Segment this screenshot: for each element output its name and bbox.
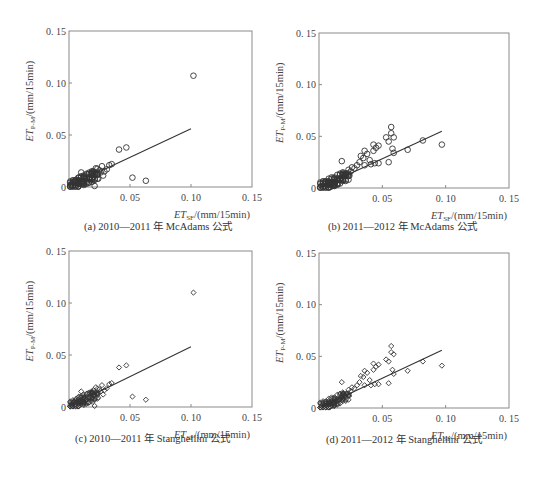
y-tick-label: 0. 10	[46, 78, 66, 89]
data-point-circle	[388, 124, 394, 130]
y-tick-label: 0. 15	[46, 26, 66, 37]
data-point-circle	[191, 73, 197, 79]
y-tick-label: 0. 10	[46, 298, 66, 309]
data-point-diamond	[124, 363, 129, 368]
y-tick-label: 0. 05	[296, 131, 316, 142]
data-point-diamond	[358, 373, 363, 378]
data-point-diamond	[439, 363, 444, 368]
data-point-circle	[143, 178, 149, 184]
y-tick-label: 0	[61, 182, 66, 193]
y-tick-label: 0. 05	[46, 130, 66, 141]
data-point-circle	[130, 175, 136, 181]
x-tick-label: 0. 05	[372, 413, 392, 424]
y-tick-label: 0. 15	[296, 28, 316, 39]
plot-frame	[69, 251, 252, 407]
panel-caption-a: (a) 2010—2011 年 McAdams 公式	[84, 218, 232, 233]
panel-caption-b: (b) 2011—2012 年 McAdams 公式	[328, 218, 477, 233]
data-point-circle	[124, 145, 130, 151]
y-axis-label: ETP-M/(mm/15min)	[274, 62, 287, 144]
y-tick-label: 0. 05	[296, 351, 316, 362]
y-tick-label: 0	[311, 403, 316, 414]
data-point-diamond	[405, 368, 410, 373]
x-tick-label: 0. 15	[242, 412, 262, 423]
y-tick-label: 0	[61, 402, 66, 413]
x-tick-label: 0. 10	[436, 193, 456, 204]
y-axis-label: ETP-M/(mm/15min)	[24, 60, 37, 142]
chart-panel-a: 00. 050. 100. 150. 050. 100. 15ETSF/(mm/…	[24, 26, 262, 223]
y-axis-label: ETP-M/(mm/15min)	[274, 282, 287, 364]
plot-frame	[319, 253, 509, 408]
x-tick-label: 0. 05	[372, 193, 392, 204]
chart-panel-b: 00. 050. 100. 150. 050. 100. 15ETSF/(mm/…	[274, 28, 519, 224]
y-tick-label: 0. 10	[296, 299, 316, 310]
data-point-diamond	[389, 343, 394, 348]
y-tick-label: 0. 10	[296, 79, 316, 90]
x-tick-label: 0. 15	[499, 413, 519, 424]
regression-line	[93, 129, 191, 175]
x-tick-label: 0. 05	[120, 192, 140, 203]
data-point-diamond	[339, 380, 344, 385]
data-point-diamond	[191, 290, 196, 295]
data-point-circle	[92, 183, 98, 189]
y-tick-label: 0. 15	[46, 246, 66, 257]
panel-caption-c: (c) 2010—2011 年 Stanghellini 公式	[75, 430, 230, 445]
x-tick-label: 0. 10	[181, 412, 201, 423]
scatter-points	[67, 73, 196, 189]
data-point-diamond	[79, 389, 84, 394]
x-tick-label: 0. 05	[120, 412, 140, 423]
data-point-circle	[383, 135, 389, 141]
data-point-diamond	[386, 381, 391, 386]
panel-caption-d: (d) 2011—2012 年 Stanghellini 公式	[326, 431, 482, 446]
data-point-circle	[391, 135, 397, 141]
data-point-circle	[386, 159, 392, 165]
data-point-circle	[439, 142, 445, 148]
regression-line	[319, 350, 442, 408]
plot-frame	[69, 31, 252, 187]
regression-line	[93, 347, 191, 395]
y-axis-label: ETP-M/(mm/15min)	[24, 280, 37, 362]
data-point-circle	[386, 139, 392, 145]
chart-panel-d: 00. 050. 100. 150. 050. 100. 15ETSF/(mm/…	[274, 248, 519, 444]
data-point-diamond	[116, 365, 121, 370]
data-point-diamond	[361, 374, 366, 379]
y-tick-label: 0. 05	[46, 350, 66, 361]
chart-panel-c: 00. 050. 100. 150. 050. 100. 15ETSF/(mm/…	[24, 246, 262, 443]
x-tick-label: 0. 10	[181, 192, 201, 203]
data-point-circle	[116, 147, 122, 153]
x-tick-label: 0. 15	[499, 193, 519, 204]
data-point-circle	[388, 130, 394, 136]
data-point-diamond	[367, 378, 372, 383]
x-tick-label: 0. 10	[436, 413, 456, 424]
plot-frame	[319, 33, 509, 188]
y-tick-label: 0	[311, 183, 316, 194]
data-point-circle	[339, 158, 345, 164]
data-point-diamond	[143, 397, 148, 402]
data-point-diamond	[130, 394, 135, 399]
regression-line	[319, 131, 442, 188]
x-tick-label: 0. 15	[242, 192, 262, 203]
y-tick-label: 0. 15	[296, 248, 316, 259]
scatter-points	[68, 290, 196, 409]
